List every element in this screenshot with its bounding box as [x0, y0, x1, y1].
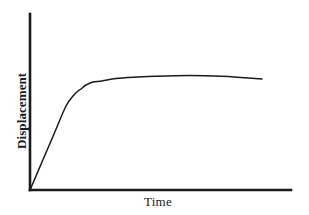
data-series-group	[30, 76, 262, 190]
plot-area	[0, 0, 309, 215]
creep-curve-line	[30, 76, 262, 190]
x-axis-label: Time	[135, 195, 181, 208]
y-axis-label: Displacement	[15, 73, 28, 149]
creep-curve-figure: Displacement Time	[0, 0, 309, 215]
